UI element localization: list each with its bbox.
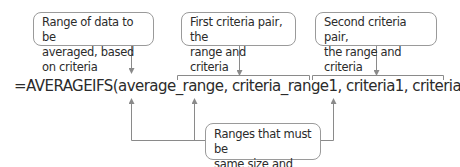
callout-line: same size and shape — [214, 157, 312, 167]
callout-average-range: Range of data to be averaged, based on c… — [33, 12, 154, 46]
arrow-up-average-range — [132, 101, 206, 141]
callout-line: the range and criteria — [324, 45, 428, 75]
callout-line: averaged, based on criteria — [42, 45, 145, 75]
callout-line: First criteria pair, the — [190, 15, 287, 45]
callout-first-criteria-pair: First criteria pair, the range and crite… — [181, 12, 296, 46]
callout-line: Range of data to be — [42, 15, 145, 45]
callout-second-criteria-pair: Second criteria pair, the range and crit… — [315, 12, 437, 46]
callout-line: range and criteria — [190, 45, 287, 75]
callout-line: Second criteria pair, — [324, 15, 428, 45]
callout-same-size-shape: Ranges that must be same size and shape — [205, 123, 321, 160]
arrow-up-criteria-range2 — [320, 101, 334, 141]
averageifs-formula: =AVERAGEIFS(average_range, criteria_rang… — [14, 77, 460, 95]
callout-line: Ranges that must be — [214, 127, 312, 157]
